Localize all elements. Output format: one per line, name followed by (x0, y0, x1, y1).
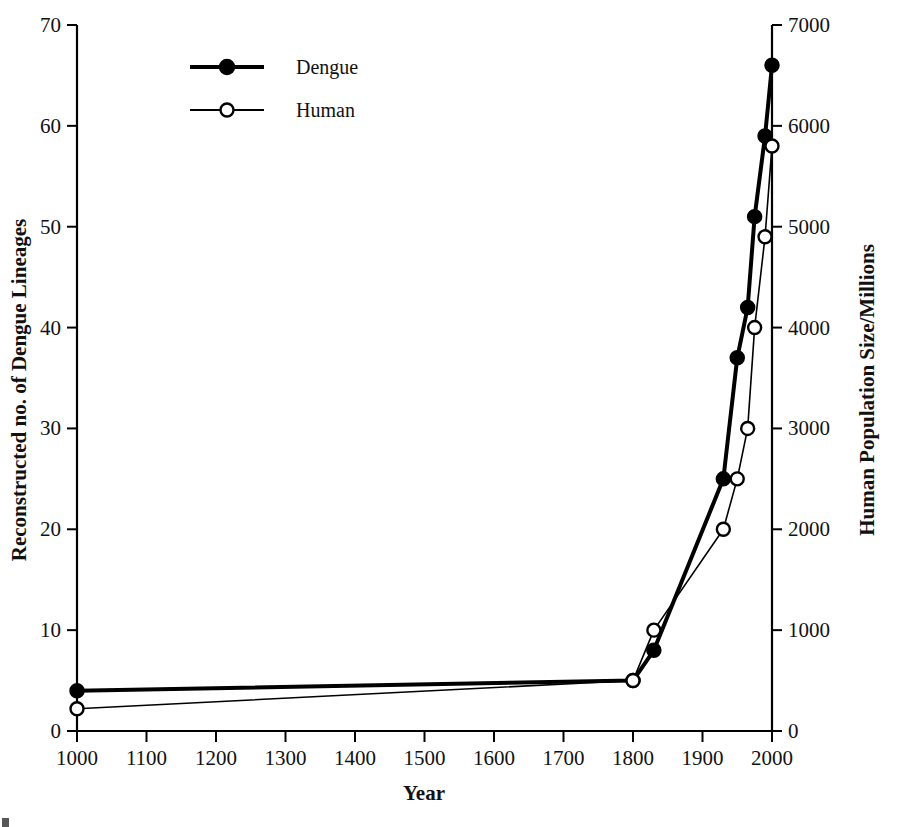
y-axis-left-ticks: 010203040506070 (40, 13, 77, 743)
y-right-tick-label: 5000 (788, 215, 830, 239)
data-point-dengue (730, 351, 744, 365)
series-human (71, 140, 779, 716)
x-tick-label: 1800 (612, 746, 654, 770)
chart-figure: 010203040506070 010002000300040005000600… (0, 0, 898, 827)
y-left-tick-label: 50 (40, 215, 61, 239)
y-left-tick-label: 30 (40, 416, 61, 440)
x-tick-label: 1200 (195, 746, 237, 770)
line-chart-canvas: 010203040506070 010002000300040005000600… (0, 0, 898, 827)
x-tick-label: 1400 (334, 746, 376, 770)
x-tick-label: 1700 (543, 746, 585, 770)
data-point-human (766, 140, 779, 153)
x-axis-title: Year (403, 781, 445, 805)
y-left-tick-label: 0 (51, 719, 62, 743)
y-right-tick-label: 0 (788, 719, 799, 743)
data-point-human (731, 472, 744, 485)
y-right-tick-label: 1000 (788, 618, 830, 642)
y-right-tick-label: 7000 (788, 13, 830, 37)
y-right-tick-label: 4000 (788, 316, 830, 340)
x-tick-label: 2000 (751, 746, 793, 770)
data-point-human (741, 422, 754, 435)
y-right-tick-label: 2000 (788, 517, 830, 541)
x-tick-label: 1100 (126, 746, 167, 770)
data-point-human (717, 523, 730, 536)
data-point-dengue (741, 300, 755, 314)
x-tick-label: 1300 (265, 746, 307, 770)
data-point-dengue (748, 210, 762, 224)
x-tick-label: 1500 (404, 746, 446, 770)
axis-lines (77, 25, 772, 731)
y-axis-right-title: Human Population Size/Millions (855, 244, 879, 536)
chart-legend: DengueHuman (190, 56, 358, 121)
legend-entry-human: Human (190, 99, 355, 121)
legend-label-human: Human (296, 99, 355, 121)
y-left-tick-label: 20 (40, 517, 61, 541)
data-point-dengue (70, 684, 84, 698)
series-line-human (77, 146, 772, 709)
x-tick-label: 1600 (473, 746, 515, 770)
x-tick-label: 1900 (682, 746, 724, 770)
y-axis-right-ticks: 01000200030004000500060007000 (772, 13, 830, 743)
y-left-tick-label: 10 (40, 618, 61, 642)
legend-entry-dengue: Dengue (190, 56, 358, 79)
scan-artifact (2, 818, 9, 827)
data-series-layer (70, 58, 779, 715)
y-right-tick-label: 6000 (788, 114, 830, 138)
y-axis-left-title: Reconstructed no. of Dengue Lineages (7, 219, 31, 561)
data-point-human (748, 321, 761, 334)
data-point-human (627, 674, 640, 687)
data-point-dengue (647, 643, 661, 657)
x-tick-label: 1000 (56, 746, 98, 770)
y-left-tick-label: 60 (40, 114, 61, 138)
series-line-dengue (77, 65, 772, 690)
legend-label-dengue: Dengue (296, 56, 358, 79)
data-point-human (647, 624, 660, 637)
data-point-dengue (765, 58, 779, 72)
y-right-tick-label: 3000 (788, 416, 830, 440)
legend-marker-human (221, 104, 234, 117)
data-point-human (71, 702, 84, 715)
data-point-human (759, 230, 772, 243)
y-left-tick-label: 70 (40, 13, 61, 37)
data-point-dengue (716, 472, 730, 486)
y-left-tick-label: 40 (40, 316, 61, 340)
x-axis-ticks: 1000110012001300140015001600170018001900… (56, 731, 793, 770)
legend-marker-dengue (220, 60, 235, 75)
